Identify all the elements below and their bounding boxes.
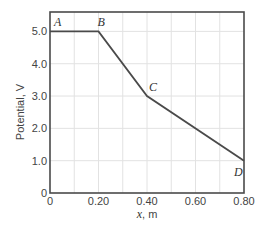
point-label-d: D — [233, 165, 243, 179]
x-tick-label: 0.60 — [185, 195, 206, 207]
x-axis-unit: , m — [142, 208, 157, 220]
grid-lines — [50, 12, 244, 193]
y-tick-labels: 01.02.03.04.05.0 — [32, 25, 47, 199]
point-label-c: C — [149, 80, 158, 94]
point-label-b: B — [98, 15, 106, 29]
point-label-a: A — [53, 15, 62, 29]
x-tick-label: 0.40 — [136, 195, 157, 207]
potential-chart: ABCD 01.02.03.04.05.0 00.200.400.600.80 … — [0, 0, 264, 228]
x-tick-label: 0.80 — [233, 195, 254, 207]
y-axis-label: Potential, V — [14, 83, 26, 140]
y-tick-label: 2.0 — [32, 122, 47, 134]
y-tick-label: 4.0 — [32, 58, 47, 70]
x-axis-label: x, m — [136, 207, 158, 221]
x-tick-label: 0 — [47, 195, 53, 207]
y-tick-label: 1.0 — [32, 155, 47, 167]
y-tick-label: 5.0 — [32, 25, 47, 37]
x-tick-labels: 00.200.400.600.80 — [47, 195, 255, 207]
x-tick-label: 0.20 — [88, 195, 109, 207]
y-tick-label: 3.0 — [32, 90, 47, 102]
